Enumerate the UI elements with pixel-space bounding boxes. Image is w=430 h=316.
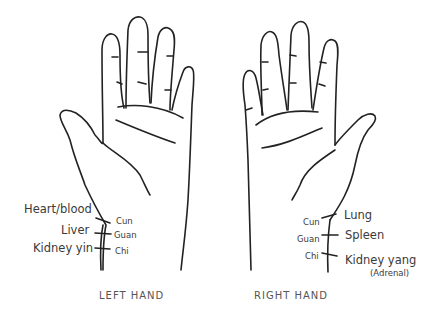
- right-organ-note-adrenal: (Adrenal): [370, 268, 409, 278]
- right-organ-spleen: Spleen: [345, 228, 384, 242]
- pulse-diagram: Heart/blood Liver Kidney yin Cun Guan Ch…: [0, 0, 430, 316]
- left-organ-liver: Liver: [61, 223, 89, 237]
- hands-illustration: [0, 0, 430, 316]
- right-position-guan: Guan: [297, 234, 320, 244]
- left-organ-heart-blood: Heart/blood: [24, 202, 92, 216]
- right-hand-caption: RIGHT HAND: [254, 290, 328, 301]
- right-organ-kidney-yang: Kidney yang: [345, 253, 416, 267]
- left-position-chi: Chi: [115, 246, 129, 256]
- left-position-cun: Cun: [116, 216, 133, 226]
- right-position-chi: Chi: [305, 251, 319, 261]
- left-organ-kidney-yin: Kidney yin: [33, 241, 93, 255]
- left-hand-caption: LEFT HAND: [99, 290, 164, 301]
- right-position-cun: Cun: [303, 217, 320, 227]
- right-organ-lung: Lung: [344, 208, 372, 222]
- left-position-guan: Guan: [114, 230, 137, 240]
